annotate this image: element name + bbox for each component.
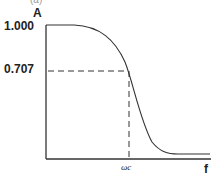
- chart-plot: [0, 0, 220, 183]
- response-curve: [46, 25, 210, 154]
